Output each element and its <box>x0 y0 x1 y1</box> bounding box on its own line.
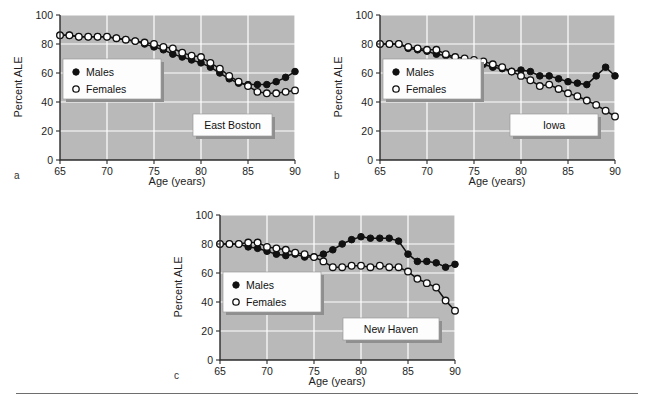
data-point-female <box>311 254 318 261</box>
data-point-female <box>593 102 600 109</box>
panel-iowa: 020406080100657075808590 Males Females I… <box>320 0 654 200</box>
data-point-female <box>123 36 130 43</box>
data-point-female <box>518 73 525 80</box>
data-point-female <box>254 239 261 246</box>
footer-divider <box>16 393 638 394</box>
filled-circle-icon <box>233 282 239 288</box>
data-point-male <box>273 78 280 85</box>
ytick-label: 60 <box>361 67 373 79</box>
data-point-male <box>358 233 365 240</box>
xtick-label: 90 <box>609 165 621 177</box>
ytick-label: 100 <box>35 9 53 21</box>
data-point-female <box>508 68 515 75</box>
data-point-female <box>301 251 308 258</box>
xtick-label: 85 <box>242 165 254 177</box>
legend-males-label: Males <box>406 66 434 78</box>
data-point-male <box>433 260 440 267</box>
data-point-female <box>198 54 205 61</box>
data-point-female <box>141 39 148 46</box>
data-point-female <box>527 77 534 84</box>
legend-females-label: Females <box>246 296 286 308</box>
ytick-label: 0 <box>367 154 373 166</box>
xtick-label: 70 <box>261 365 273 377</box>
data-point-female <box>94 33 101 40</box>
panel-east-boston: 020406080100657075808590 Males Females E… <box>0 0 320 200</box>
data-point-female <box>254 89 261 96</box>
data-point-female <box>76 33 83 40</box>
title-box-new-haven: New Haven <box>343 318 442 343</box>
ytick-label: 100 <box>195 209 213 221</box>
data-point-female <box>386 264 393 271</box>
data-point-female <box>188 52 195 59</box>
data-point-female <box>424 47 431 54</box>
panel-label-c: c <box>174 370 179 381</box>
legend-females-label: Females <box>86 83 126 95</box>
data-point-female <box>452 307 459 314</box>
data-point-female <box>113 35 120 42</box>
data-point-male <box>386 235 393 242</box>
data-point-female <box>546 81 553 88</box>
ytick-label: 0 <box>207 354 213 366</box>
title-box-east-boston: East Boston <box>193 114 275 139</box>
ytick-label: 80 <box>201 238 213 250</box>
xtick-label: 90 <box>449 365 461 377</box>
data-point-female <box>292 87 299 94</box>
data-point-female <box>292 249 299 256</box>
data-point-male <box>367 235 374 242</box>
data-point-female <box>443 51 450 58</box>
data-point-male <box>593 73 600 80</box>
xtick-label: 90 <box>289 165 301 177</box>
data-point-female <box>405 268 412 275</box>
ytick-label: 100 <box>355 9 373 21</box>
data-point-female <box>236 241 243 248</box>
ytick-label: 40 <box>41 96 53 108</box>
data-point-female <box>386 41 393 48</box>
data-point-male <box>254 81 261 88</box>
data-point-female <box>245 239 252 246</box>
ytick-label: 20 <box>361 125 373 137</box>
ytick-label: 40 <box>201 296 213 308</box>
xaxis-title-iowa: Age (years) <box>469 175 526 187</box>
data-point-male <box>339 241 346 248</box>
data-point-female <box>85 33 92 40</box>
ytick-label: 60 <box>41 67 53 79</box>
xtick-label: 65 <box>374 165 386 177</box>
xaxis-title-new-haven: Age (years) <box>309 375 366 387</box>
figure-container: 020406080100657075808590 Males Females E… <box>0 0 654 404</box>
chart-new-haven: 020406080100657075808590 Males Females N… <box>160 200 494 395</box>
data-point-female <box>207 60 214 67</box>
data-point-female <box>574 93 581 100</box>
legend-east-boston: Males Females <box>63 59 164 102</box>
data-point-female <box>273 90 280 97</box>
data-point-female <box>151 41 158 48</box>
data-point-male <box>320 251 327 258</box>
data-point-male <box>264 81 271 88</box>
xtick-label: 70 <box>101 165 113 177</box>
data-point-female <box>217 65 224 72</box>
data-point-male <box>612 73 619 80</box>
data-point-male <box>602 64 609 71</box>
ytick-label: 20 <box>41 125 53 137</box>
data-point-female <box>537 83 544 90</box>
data-point-female <box>170 45 177 52</box>
xtick-label: 65 <box>214 365 226 377</box>
xtick-label: 85 <box>562 165 574 177</box>
data-point-female <box>330 264 337 271</box>
chart-title-east-boston: East Boston <box>204 119 261 131</box>
yaxis-title-new-haven: Percent ALE <box>172 256 184 317</box>
data-point-male <box>348 236 355 243</box>
data-point-male <box>546 73 553 80</box>
data-point-male <box>537 73 544 80</box>
data-point-female <box>490 61 497 68</box>
ytick-label: 80 <box>361 38 373 50</box>
open-circle-icon <box>393 86 399 92</box>
data-point-female <box>442 297 449 304</box>
yaxis-title-iowa: Percent ALE <box>332 56 344 117</box>
data-point-female <box>584 97 591 104</box>
data-point-female <box>405 44 412 51</box>
ytick-label: 0 <box>47 154 53 166</box>
data-point-female <box>377 262 384 269</box>
open-circle-icon <box>73 86 79 92</box>
panel-label-a: a <box>14 170 20 181</box>
data-point-female <box>235 78 242 85</box>
